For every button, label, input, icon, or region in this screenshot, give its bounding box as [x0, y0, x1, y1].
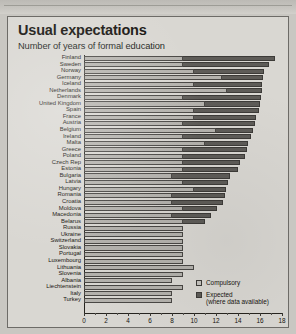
x-tick-major — [172, 313, 173, 316]
bar-group — [84, 56, 282, 61]
bar-compulsory — [84, 141, 205, 146]
bar-compulsory — [84, 272, 183, 277]
bar-compulsory — [84, 278, 172, 283]
bar-compulsory — [84, 206, 183, 211]
bar-rows: FinlandSwedenNorwayGermanyIcelandNetherl… — [10, 55, 287, 304]
x-tick-minor — [183, 313, 184, 315]
bar-compulsory — [84, 128, 216, 133]
x-tick-label: 4 — [126, 317, 130, 324]
bar-compulsory — [84, 62, 183, 67]
bar-compulsory — [84, 245, 183, 250]
bar-group — [84, 180, 282, 185]
bar-compulsory — [84, 193, 172, 198]
x-tick-major — [84, 313, 85, 316]
bar-compulsory — [84, 121, 183, 126]
x-tick-label: 8 — [170, 317, 174, 324]
bar-compulsory — [84, 108, 194, 113]
bar-group — [84, 173, 282, 178]
bar-compulsory — [84, 69, 194, 74]
x-tick-minor — [139, 313, 140, 315]
x-tick-label: 16 — [256, 317, 263, 324]
bar-compulsory — [84, 291, 172, 296]
bar-group — [84, 272, 282, 277]
bar-compulsory — [84, 160, 183, 165]
category-label: Turkey — [0, 296, 81, 303]
bar-group — [84, 88, 282, 93]
bar-compulsory — [84, 75, 222, 80]
bar-group — [84, 213, 282, 218]
bar-compulsory — [84, 219, 183, 224]
x-tick-major — [106, 313, 107, 316]
bar-compulsory — [84, 226, 183, 231]
top-rule — [4, 5, 292, 6]
bar-group — [84, 160, 282, 165]
bar-group — [84, 239, 282, 244]
bar-compulsory — [84, 173, 172, 178]
bar-group — [84, 187, 282, 192]
x-tick-major — [216, 313, 217, 316]
bar-compulsory — [84, 259, 183, 264]
bar-compulsory — [84, 134, 183, 139]
chart-subtitle: Number of years of formal education — [18, 41, 165, 51]
x-tick-label: 10 — [190, 317, 197, 324]
bar-group — [84, 121, 282, 126]
bar-compulsory — [84, 88, 227, 93]
bar-compulsory — [84, 167, 183, 172]
bar-group — [84, 232, 282, 237]
x-tick-minor — [205, 313, 206, 315]
bar-group — [84, 101, 282, 106]
bar-compulsory — [84, 232, 183, 237]
bar-group — [84, 154, 282, 159]
bar-group — [84, 147, 282, 152]
bar-group — [84, 252, 282, 257]
bar-compulsory — [84, 298, 172, 303]
chart-panel: Usual expectations Number of years of fo… — [7, 16, 289, 328]
x-tick-major — [238, 313, 239, 316]
chart-page: Usual expectations Number of years of fo… — [0, 0, 296, 334]
x-tick-label: 12 — [212, 317, 219, 324]
legend-swatch-expected-icon — [196, 292, 202, 298]
plot-area: FinlandSwedenNorwayGermanyIcelandNetherl… — [10, 55, 287, 327]
bar-compulsory — [84, 265, 194, 270]
bar-group — [84, 259, 282, 264]
bar-compulsory — [84, 95, 183, 100]
x-tick-minor — [249, 313, 250, 315]
bar-group — [84, 108, 282, 113]
page-background — [0, 0, 296, 14]
bar-group — [84, 200, 282, 205]
bar-compulsory — [84, 285, 183, 290]
bar-group — [84, 219, 282, 224]
x-tick-label: 14 — [234, 317, 241, 324]
bar-compulsory — [84, 82, 194, 87]
x-tick-major — [194, 313, 195, 316]
legend-item-compulsory: Compulsory — [196, 279, 269, 286]
bar-group — [84, 134, 282, 139]
x-tick-major — [282, 313, 283, 316]
bar-compulsory — [84, 252, 183, 257]
bar-group — [84, 69, 282, 74]
bar-compulsory — [84, 147, 183, 152]
bar-group — [84, 226, 282, 231]
x-tick-label: 18 — [278, 317, 285, 324]
x-tick-label: 0 — [82, 317, 86, 324]
x-tick-minor — [95, 313, 96, 315]
bar-group — [84, 245, 282, 250]
chart-legend: Compulsory Expected (where data availabl… — [196, 279, 269, 311]
bar-compulsory — [84, 115, 194, 120]
bar-compulsory — [84, 154, 183, 159]
bar-compulsory — [84, 101, 205, 106]
x-tick-major — [128, 313, 129, 316]
bar-compulsory — [84, 187, 194, 192]
legend-item-expected: Expected (where data available) — [196, 291, 269, 305]
bar-compulsory — [84, 213, 172, 218]
legend-swatch-compulsory-icon — [196, 280, 202, 286]
legend-sublabel-expected: (where data available) — [206, 298, 269, 305]
x-tick-label: 2 — [104, 317, 108, 324]
x-tick-major — [150, 313, 151, 316]
bar-group — [84, 167, 282, 172]
bar-group — [84, 265, 282, 270]
bar-group — [84, 62, 282, 67]
bar-compulsory — [84, 200, 172, 205]
bar-group — [84, 82, 282, 87]
bar-group — [84, 193, 282, 198]
